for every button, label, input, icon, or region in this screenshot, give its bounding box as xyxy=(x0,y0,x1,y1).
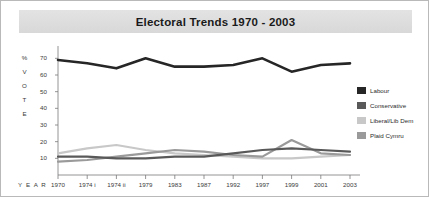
legend-color-swatch xyxy=(357,117,366,124)
legend-item-label: Conservative xyxy=(370,102,406,109)
y-axis-title-letter: T xyxy=(20,96,29,103)
x-axis-tick-label: 1999 xyxy=(285,181,299,188)
y-axis-title-letter: V xyxy=(20,68,29,75)
x-axis-tick-label: 1987 xyxy=(197,181,211,188)
legend-item[interactable]: Conservative xyxy=(357,98,413,113)
y-axis-tick-label: 60 xyxy=(31,71,47,78)
x-axis-tick-label: 1997 xyxy=(256,181,270,188)
y-axis-tick-label: 20 xyxy=(31,138,47,145)
y-axis-tick-label: 10 xyxy=(31,154,47,161)
chart-frame: Electoral Trends 1970 - 2003 10203040506… xyxy=(0,0,429,197)
y-axis-tick-label: 70 xyxy=(31,54,47,61)
legend-item[interactable]: Labour xyxy=(357,83,413,98)
x-axis-tick-label: 1970 xyxy=(51,181,65,188)
x-axis-tick-label: 2003 xyxy=(343,181,357,188)
legend-item-label: Plaid Cymru xyxy=(370,132,404,139)
x-axis-tick-label: 1974 ii xyxy=(107,181,125,188)
y-axis-title-letter: % xyxy=(20,54,29,61)
legend-color-swatch xyxy=(357,102,366,109)
legend-item-label: Liberal/Lib Dem xyxy=(370,117,413,124)
series-line-labour xyxy=(58,58,350,71)
x-axis-tick-label: 1974 i xyxy=(79,181,96,188)
y-axis-tick-label: 50 xyxy=(31,88,47,95)
legend-item[interactable]: Liberal/Lib Dem xyxy=(357,113,413,128)
x-axis-title: Y E A R xyxy=(18,181,47,188)
legend-color-swatch xyxy=(357,132,366,139)
x-axis-tick-label: 1983 xyxy=(168,181,182,188)
y-axis-tick-label: 40 xyxy=(31,104,47,111)
legend: LabourConservativeLiberal/Lib DemPlaid C… xyxy=(357,83,413,143)
legend-item-label: Labour xyxy=(370,87,389,94)
legend-item[interactable]: Plaid Cymru xyxy=(357,128,413,143)
legend-color-swatch xyxy=(357,87,366,94)
y-axis-title-letter: O xyxy=(20,82,29,89)
x-axis-tick-label: 1992 xyxy=(226,181,240,188)
y-axis-title-letter: E xyxy=(20,110,29,117)
y-axis-tick-label: 30 xyxy=(31,121,47,128)
x-axis-tick-label: 1979 xyxy=(139,181,153,188)
x-axis-tick-label: 2001 xyxy=(314,181,328,188)
